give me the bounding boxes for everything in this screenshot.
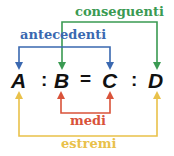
term-d: D xyxy=(148,69,163,93)
label-conseguenti: conseguenti xyxy=(75,4,164,19)
label-antecedenti: antecedenti xyxy=(20,27,106,42)
term-c: C xyxy=(102,69,117,93)
term-b: B xyxy=(54,69,69,93)
label-medi: medi xyxy=(70,113,106,128)
operator-equals: = xyxy=(80,68,91,90)
operator-ratio-2: : xyxy=(131,69,137,91)
label-estremi: estremi xyxy=(61,136,116,151)
term-a: A xyxy=(11,69,26,93)
operator-ratio-1: : xyxy=(41,69,47,91)
